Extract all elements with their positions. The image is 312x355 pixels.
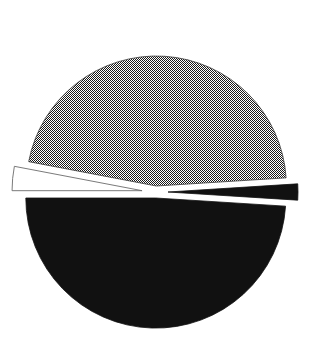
pie-chart-figure: [0, 0, 312, 355]
pie-chart-svg: [0, 0, 312, 355]
